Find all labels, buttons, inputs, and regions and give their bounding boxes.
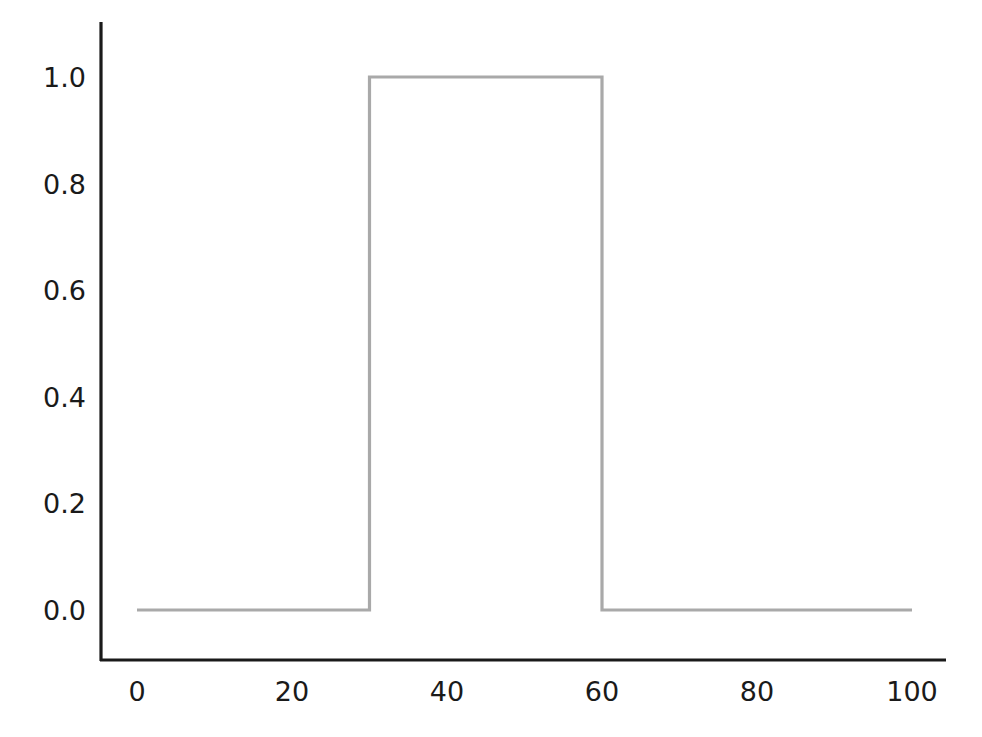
x-tick-label: 60 (585, 678, 619, 705)
axes-spines (100, 22, 946, 661)
y-tick-label: 0.4 (14, 384, 86, 411)
plot-canvas (0, 0, 982, 737)
x-tick-label: 80 (740, 678, 774, 705)
x-tick-label: 40 (430, 678, 464, 705)
y-tick-label: 0.6 (14, 277, 86, 304)
chart-figure: 1.0 0.8 0.6 0.4 0.2 0.0 0 20 40 60 80 10… (0, 0, 982, 737)
data-series-group (137, 77, 912, 610)
y-tick-label: 0.2 (14, 490, 86, 517)
y-tick-label: 1.0 (14, 64, 86, 91)
y-tick-label: 0.0 (14, 597, 86, 624)
x-tick-label: 100 (886, 678, 938, 705)
y-tick-label: 0.8 (14, 171, 86, 198)
x-tick-label: 20 (275, 678, 309, 705)
data-line-pulse (137, 77, 912, 610)
x-tick-label: 0 (128, 678, 145, 705)
